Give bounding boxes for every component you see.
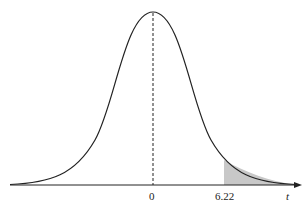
axis-arrow-icon [294, 182, 302, 188]
shaded-tail [224, 160, 296, 185]
axis-t-label: t [286, 190, 289, 202]
curve-graphic [0, 0, 308, 211]
critical-value-label: 6.22 [215, 190, 234, 202]
zero-label: 0 [149, 190, 155, 202]
t-distribution-diagram: 0 6.22 t [0, 0, 308, 211]
